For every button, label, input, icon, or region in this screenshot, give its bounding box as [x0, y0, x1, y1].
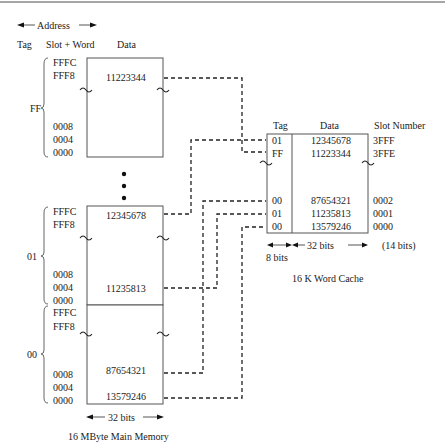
memory-block-01: 01 FFFC FFF8 0008 0004 0000 12345678 112… [27, 206, 169, 306]
connector-00-0008 [164, 201, 266, 373]
cache-table: Tag Data Slot Number 01 12345678 3FFF FF… [260, 120, 426, 233]
memory-data-13579246: 13579246 [106, 391, 146, 402]
cache-tag: 00 [272, 195, 282, 206]
connector-01-0004 [164, 214, 266, 288]
column-header-slot-word: Slot + Word [46, 39, 95, 50]
connector-01-fffc [164, 140, 266, 214]
cache-mapping-diagram: Address Tag Slot + Word Data FF FFFC FFF… [0, 0, 445, 447]
memory-width-label: 32 bits [108, 412, 135, 423]
main-memory-title: 16 MByte Main Memory [68, 431, 169, 442]
cache-data: 11223344 [311, 148, 351, 159]
cache-data: 87654321 [311, 195, 351, 206]
cache-tag: 01 [272, 208, 282, 219]
connector-ff [164, 78, 266, 152]
cache-data-width-label: 32 bits [307, 240, 334, 251]
tag-label-00: 00 [27, 349, 37, 360]
cache-slot: 3FFE [373, 148, 395, 159]
memory-data-11223344: 11223344 [106, 72, 146, 83]
address-fffc: FFFC [53, 307, 77, 318]
column-header-data: Data [117, 39, 136, 50]
address-fff8: FFF8 [53, 219, 75, 230]
column-header-tag: Tag [17, 39, 32, 50]
cache-header-slot: Slot Number [374, 120, 426, 131]
address-0000: 0000 [53, 295, 73, 306]
address-0000: 0000 [53, 147, 73, 158]
memory-data-11235813: 11235813 [106, 283, 146, 294]
cache-title: 16 K Word Cache [292, 273, 364, 284]
mapping-connectors [164, 78, 266, 398]
cache-data: 13579246 [311, 221, 351, 232]
address-0004: 0004 [53, 382, 73, 393]
memory-block-00: 00 FFFC FFF8 0008 0004 0000 87654321 135… [27, 305, 169, 406]
memory-data-87654321: 87654321 [106, 365, 146, 376]
address-label: Address [37, 20, 70, 31]
cache-slot: 0000 [373, 221, 393, 232]
cache-header-data: Data [320, 120, 339, 131]
cache-tag-width-label: 8 bits [266, 252, 288, 263]
cache-data: 11235813 [311, 208, 351, 219]
address-0008: 0008 [53, 121, 73, 132]
address-fffc: FFFC [53, 206, 77, 217]
cache-slot: 0001 [373, 208, 393, 219]
cache-tag: FF [272, 148, 284, 159]
cache-tag: 00 [272, 221, 282, 232]
address-0008: 0008 [53, 369, 73, 380]
address-fff8: FFF8 [53, 321, 75, 332]
address-0000: 0000 [53, 395, 73, 406]
tag-label-ff: FF [30, 103, 42, 114]
cache-slot-width-label: (14 bits) [382, 240, 416, 252]
address-0008: 0008 [53, 269, 73, 280]
cache-data: 12345678 [311, 135, 351, 146]
cache-header-tag: Tag [273, 120, 288, 131]
cache-tag: 01 [272, 135, 282, 146]
cache-slot: 0002 [373, 195, 393, 206]
ellipsis-dots [122, 172, 126, 200]
memory-data-12345678: 12345678 [106, 210, 146, 221]
address-fffc: FFFC [53, 57, 77, 68]
cache-slot: 3FFF [373, 135, 395, 146]
address-fff8: FFF8 [53, 70, 75, 81]
tag-label-01: 01 [27, 251, 37, 262]
address-0004: 0004 [53, 282, 73, 293]
memory-block-ff: FF FFFC FFF8 0008 0004 0000 11223344 [30, 57, 169, 158]
cache-tag-width-arrow [267, 243, 292, 248]
address-0004: 0004 [53, 134, 73, 145]
